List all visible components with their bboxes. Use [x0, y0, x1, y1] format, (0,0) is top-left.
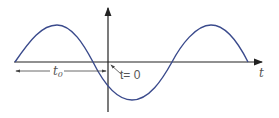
x-axis-label: t — [259, 66, 264, 80]
sine-diagram: t0 t= 0 t — [0, 0, 279, 118]
t0-label: t0 — [53, 64, 63, 79]
origin-label: t= 0 — [120, 68, 141, 82]
